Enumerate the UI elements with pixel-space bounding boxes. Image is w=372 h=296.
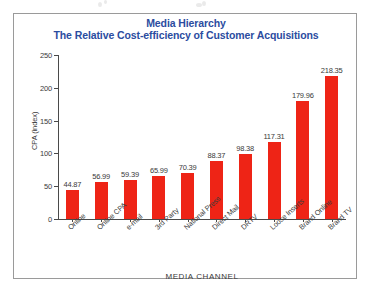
y-axis-tick-label: 200 (22, 84, 52, 93)
bar-value-label: 98.38 (229, 144, 261, 153)
chart-frame: Media Hierarchy The Relative Cost-effici… (13, 13, 357, 279)
bar-value-label: 59.39 (114, 170, 146, 179)
chart-title-line1: Media Hierarchy (14, 18, 358, 30)
y-axis-title-container: CPA (index) (32, 55, 44, 219)
plot-area: 050100150200250 44.8756.9959.3965.9970.3… (58, 55, 346, 219)
bar-value-label: 56.99 (85, 172, 117, 181)
scan-speck (104, 0, 107, 4)
bar-value-label: 218.35 (316, 66, 348, 75)
y-axis-tick (54, 153, 59, 154)
bar-value-label: 65.99 (143, 166, 175, 175)
y-axis-tick-label: 250 (22, 51, 52, 60)
bar (95, 182, 108, 219)
chart-title-line2: The Relative Cost-efficiency of Customer… (14, 30, 358, 42)
bar-value-label: 117.31 (258, 132, 290, 141)
y-axis-tick-label: 50 (22, 182, 52, 191)
y-axis-line (58, 55, 59, 219)
x-axis-title: MEDIA CHANNEL (58, 272, 346, 281)
y-axis-tick (54, 55, 59, 56)
bar (268, 142, 281, 219)
chart-title: Media Hierarchy The Relative Cost-effici… (14, 18, 358, 41)
scan-speck (202, 1, 206, 6)
y-axis-tick-label: 100 (22, 149, 52, 158)
bar (210, 161, 223, 219)
bar-value-label: 179.96 (287, 91, 319, 100)
scan-speck (98, 2, 102, 7)
y-axis-tick-label: 0 (22, 215, 52, 224)
y-axis-tick (54, 219, 59, 220)
y-axis-tick (54, 121, 59, 122)
scan-artifact-specks (0, 0, 372, 12)
bar-value-label: 88.37 (200, 151, 232, 160)
bar-value-label: 70.39 (172, 163, 204, 172)
bar (152, 176, 165, 219)
y-axis-tick-label: 150 (22, 117, 52, 126)
bar (124, 180, 137, 219)
bar (181, 173, 194, 219)
y-axis-tick (54, 88, 59, 89)
bar-value-label: 44.87 (56, 180, 88, 189)
